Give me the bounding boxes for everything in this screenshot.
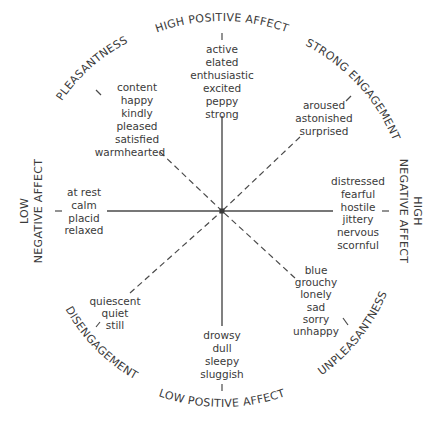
diagonal-axis-upper-right: [222, 137, 300, 211]
svg-text:NEGATIVE AFFECT: NEGATIVE AFFECT: [32, 159, 45, 263]
word: quiescent: [89, 295, 140, 307]
word: grouchy: [295, 276, 337, 288]
word: sad: [307, 301, 326, 313]
words-unpleasantness: blue grouchy lonely sad sorry unhappy: [293, 264, 339, 337]
word: placid: [68, 212, 99, 224]
word: blue: [305, 264, 328, 276]
word: strong: [205, 108, 238, 120]
words-high-positive-affect: active elated enthusiastic excited peppy…: [190, 43, 254, 120]
words-pleasantness: content happy kindly pleased satisfied w…: [95, 81, 166, 158]
word: drowsy: [203, 329, 240, 341]
word: unhappy: [293, 325, 339, 337]
tick-lower-right: [343, 318, 348, 325]
words-high-negative-affect: distressed fearful hostile jittery nervo…: [331, 175, 385, 251]
diagonal-axis-lower-right: [222, 211, 295, 278]
center-point: [220, 209, 225, 214]
word: at rest: [67, 186, 101, 198]
word: aroused: [303, 99, 345, 111]
tick-lower-left: [96, 322, 100, 327]
word: sleepy: [205, 355, 239, 367]
word: calm: [71, 199, 96, 211]
diagonal-axis-upper-left: [160, 152, 222, 211]
label-high-negative-affect: HIGH NEGATIVE AFFECT: [397, 159, 424, 263]
word: excited: [203, 82, 241, 94]
word: happy: [121, 94, 154, 106]
word: sorry: [303, 313, 330, 325]
word: enthusiastic: [190, 69, 254, 81]
word: peppy: [206, 95, 239, 107]
word: distressed: [331, 175, 385, 187]
diagonal-axis-lower-left: [130, 211, 222, 293]
tick-upper-left: [96, 90, 101, 95]
words-low-negative-affect: at rest calm placid relaxed: [65, 186, 104, 236]
word: relaxed: [65, 224, 104, 236]
word: dull: [212, 342, 231, 354]
word: satisfied: [115, 133, 159, 145]
label-high-positive-affect: HIGH POSITIVE AFFECT: [154, 11, 291, 35]
word: content: [117, 81, 157, 93]
word: astonished: [295, 112, 352, 124]
svg-text:LOW: LOW: [18, 198, 31, 224]
svg-text:NEGATIVE AFFECT: NEGATIVE AFFECT: [397, 159, 410, 263]
word: lonely: [300, 288, 332, 300]
word: quiet: [102, 307, 129, 319]
word: warmhearted: [95, 146, 166, 158]
words-low-positive-affect: drowsy dull sleepy sluggish: [200, 329, 243, 380]
word: pleased: [116, 120, 157, 132]
label-low-negative-affect: LOW NEGATIVE AFFECT: [18, 159, 45, 263]
affect-circumplex-diagram: HIGH POSITIVE AFFECT STRONG ENGAGEMENT P…: [0, 0, 438, 423]
word: active: [206, 43, 238, 55]
word: fearful: [341, 188, 375, 200]
word: still: [106, 319, 124, 331]
word: sluggish: [200, 368, 243, 380]
word: jittery: [341, 213, 373, 225]
word: scornful: [337, 239, 379, 251]
word: nervous: [337, 226, 379, 238]
word: elated: [205, 56, 238, 68]
words-strong-engagement: aroused astonished surprised: [295, 99, 352, 137]
word: kindly: [121, 107, 152, 119]
tick-upper-right: [346, 96, 351, 101]
word: hostile: [341, 201, 376, 213]
svg-text:HIGH: HIGH: [411, 196, 424, 226]
word: surprised: [300, 125, 349, 137]
